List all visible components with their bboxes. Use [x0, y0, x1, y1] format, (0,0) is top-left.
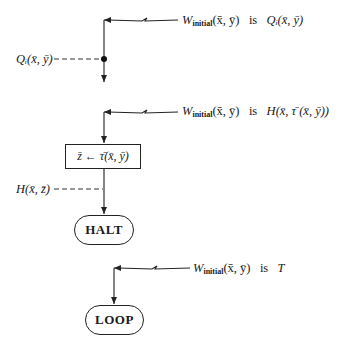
terminal-text: LOOP [95, 312, 134, 327]
w-symbol: W [193, 261, 203, 275]
entry-annotation-3: Winitial(x̄, ȳ) is T [193, 261, 285, 279]
halt-terminal: HALT [74, 215, 134, 245]
is-keyword: is [260, 261, 268, 275]
entry-annotation-2: Winitial(x̄, ȳ) is H(x̄, τ̄ (x̄, ȳ)) [182, 104, 329, 122]
entry-arrow-2 [104, 110, 178, 113]
w-args: (x̄, ȳ) [223, 261, 250, 275]
w-subscript: initial [192, 110, 212, 119]
is-keyword: is [249, 104, 257, 118]
entry-arrow-3 [114, 266, 190, 269]
is-keyword: is [249, 13, 257, 27]
cutpoint-dot [101, 56, 107, 62]
assignment-text: z̄ ← τ̄(x̄, ȳ) [77, 149, 129, 163]
w-symbol: W [182, 13, 192, 27]
point-label-2: H(x̄, z̄) [16, 182, 50, 196]
assignment-box: z̄ ← τ̄(x̄, ȳ) [65, 144, 141, 169]
w-subscript: initial [192, 19, 212, 28]
entry-arrow-1 [104, 18, 178, 21]
loop-terminal: LOOP [85, 305, 144, 335]
w-symbol: W [182, 104, 192, 118]
point-label-text: Qᵢ(x̄, ȳ) [16, 52, 53, 66]
point-label-text: H(x̄, z̄) [16, 182, 50, 196]
annotation-value: H(x̄, τ̄ (x̄, ȳ)) [267, 104, 329, 118]
w-subscript: initial [203, 267, 223, 276]
point-label-1: Qᵢ(x̄, ȳ) [16, 52, 53, 66]
entry-annotation-1: Winitial(x̄, ȳ) is Qᵢ(x̄, ȳ) [182, 13, 303, 31]
w-args: (x̄, ȳ) [212, 104, 239, 118]
terminal-text: HALT [85, 222, 123, 237]
annotation-value: T [278, 261, 285, 275]
annotation-value: Qᵢ(x̄, ȳ) [267, 13, 304, 27]
w-args: (x̄, ȳ) [212, 13, 239, 27]
